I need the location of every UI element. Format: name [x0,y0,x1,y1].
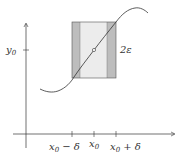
x-label-minus-delta: x0 − δ [49,141,80,154]
y0-label: y0 [5,44,17,57]
point-x0-y0 [92,48,95,51]
epsilon-delta-diagram: y0 2ε x0 − δ x0 x0 + δ [0,0,189,161]
epsilon-label: 2ε [119,44,132,55]
delta-band-right [107,22,116,78]
x-label-center: x0 [89,138,100,151]
x-label-plus-delta: x0 + δ [110,141,141,154]
